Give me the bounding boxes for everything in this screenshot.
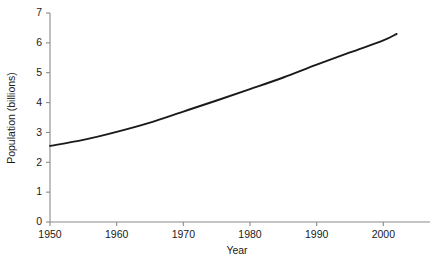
x-tick-label: 2000 (372, 228, 396, 240)
plot-area (50, 34, 397, 146)
x-axis: 195019601970198019902000 (38, 222, 430, 240)
x-axis-label: Year (226, 244, 248, 256)
x-tick-label: 1980 (238, 228, 262, 240)
population-line-chart: 01234567 195019601970198019902000 Popula… (0, 0, 437, 267)
y-tick-label: 2 (36, 156, 42, 168)
y-tick-group: 01234567 (36, 6, 50, 227)
y-axis: 01234567 (36, 6, 50, 227)
x-tick-label: 1990 (305, 228, 329, 240)
chart-svg: 01234567 195019601970198019902000 Popula… (0, 0, 437, 267)
x-tick-label: 1960 (105, 228, 129, 240)
x-tick-group: 195019601970198019902000 (38, 222, 395, 240)
y-tick-label: 1 (36, 185, 42, 197)
x-tick-label: 1970 (172, 228, 196, 240)
y-axis-label: Population (billions) (5, 72, 17, 164)
y-tick-label: 0 (36, 215, 42, 227)
data-series-line (50, 34, 397, 146)
y-tick-label: 4 (36, 96, 42, 108)
y-tick-label: 3 (36, 126, 42, 138)
x-tick-label: 1950 (38, 228, 62, 240)
y-tick-label: 5 (36, 66, 42, 78)
y-tick-label: 7 (36, 6, 42, 18)
y-tick-label: 6 (36, 36, 42, 48)
